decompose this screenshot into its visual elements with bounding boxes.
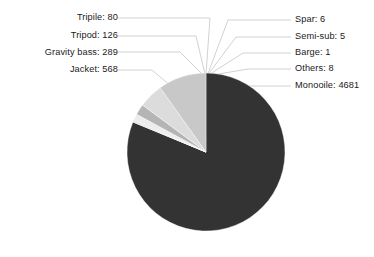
leader-line-tripile [118,18,210,74]
pie-label-others: Others: 8 [295,63,334,74]
leader-line-tripod [118,36,205,74]
pie-label-spar: Spar: 6 [295,14,325,25]
pie-label-jacket: Jacket: 568 [70,64,118,75]
pie-chart-figure: Tripile: 80 Tripod: 126 Gravity bass: 28… [0,0,374,257]
pie-label-tripile: Tripile: 80 [77,12,118,23]
pie-label-gravity-bass: Gravity bass: 289 [45,47,118,58]
pie-label-semi-sub: Semi-sub: 5 [295,31,345,42]
pie-slice-group [127,73,285,231]
leader-line-gravity-bass [118,52,203,75]
pie-label-monooile: Monooile: 4681 [295,80,359,91]
pie-label-tripod: Tripod: 126 [71,30,118,41]
leader-line-barge [207,53,291,76]
pie-label-barge: Barge: 1 [295,47,331,58]
